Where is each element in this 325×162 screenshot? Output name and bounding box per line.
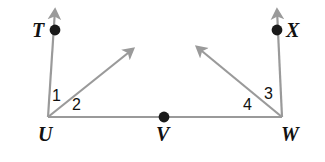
ray-u-diagonal [48, 49, 133, 117]
point-dot-x [272, 25, 283, 36]
vertex-label-t: T [32, 20, 44, 40]
geometry-figure: T U V W X 1 2 3 4 [0, 0, 325, 162]
angle-label-4: 4 [243, 97, 252, 113]
angle-label-2: 2 [72, 97, 81, 113]
vertex-label-x: X [286, 20, 299, 40]
point-dot-t [50, 25, 61, 36]
vertex-label-u: U [38, 124, 52, 144]
ray-w-diagonal [197, 47, 282, 117]
angle-label-1: 1 [52, 88, 61, 104]
angle-label-3: 3 [264, 86, 273, 102]
vertex-label-v: V [156, 124, 169, 144]
point-dot-v [159, 112, 170, 123]
vertex-label-w: W [281, 124, 299, 144]
